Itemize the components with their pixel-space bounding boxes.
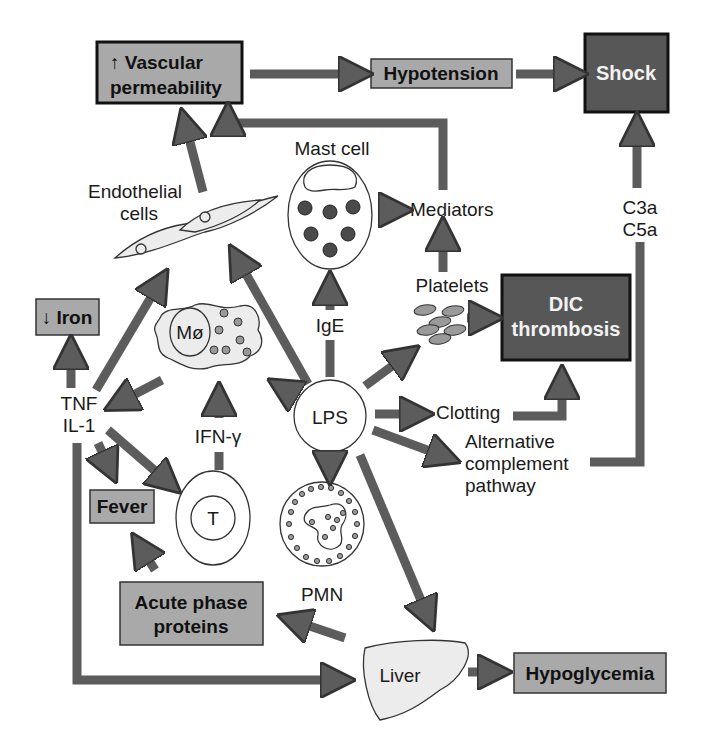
arrow-lps-to-platelets <box>365 355 407 386</box>
arrow-tnf-to-endothelial <box>96 282 160 390</box>
ige-label: IgE <box>316 315 345 336</box>
il1-label: IL-1 <box>63 415 96 436</box>
arrow-acute-to-fever <box>140 546 155 570</box>
ifn-gamma-label: IFN-γ <box>195 426 242 447</box>
alt-complement-label-1: Alternative <box>465 431 555 452</box>
iron-box: ↓ Iron <box>36 299 99 335</box>
dic-thrombosis-box: DIC thrombosis <box>502 275 630 360</box>
arrow-liver-to-acute <box>292 620 345 638</box>
svg-text:Mø: Mø <box>176 322 204 343</box>
lps-node: LPS <box>294 380 366 452</box>
c3a-label: C3a <box>623 197 658 218</box>
arrow-macrophage-to-tnf <box>118 380 162 403</box>
arrow-lps-to-complement <box>373 430 446 457</box>
mediators-label: Mediators <box>410 199 493 220</box>
arrow-clotting-to-dic <box>513 380 562 416</box>
arrow-tnf-to-tcell <box>108 430 169 483</box>
clotting-label: Clotting <box>436 402 500 423</box>
macrophage-shape: Mø <box>155 304 262 369</box>
t-cell-shape: T <box>176 471 250 565</box>
svg-text:Hypotension: Hypotension <box>383 63 498 84</box>
svg-text:Shock: Shock <box>596 62 657 84</box>
hypoglycemia-box: Hypoglycemia <box>514 653 666 693</box>
acute-phase-proteins-box: Acute phase proteins <box>120 582 263 645</box>
mast-cell-label: Mast cell <box>295 138 370 159</box>
vascular-permeability-box: ↑ Vascular permeability <box>97 42 242 103</box>
svg-text:DIC: DIC <box>549 293 583 315</box>
c5a-label: C5a <box>623 219 658 240</box>
alt-complement-label-2: complement <box>465 453 569 474</box>
endothelial-cells-label: Endothelial <box>88 181 182 202</box>
pmn-label: PMN <box>301 584 343 605</box>
svg-text:Acute phase: Acute phase <box>135 592 248 613</box>
fever-box: Fever <box>90 490 154 523</box>
svg-text:LPS: LPS <box>312 407 348 428</box>
svg-text:Hypoglycemia: Hypoglycemia <box>526 663 655 684</box>
endothelial-cells-label-2: cells <box>120 203 158 224</box>
platelets-label: Platelets <box>416 275 489 296</box>
svg-text:thrombosis: thrombosis <box>512 318 621 340</box>
tnf-label: TNF <box>61 393 98 414</box>
arrow-lps-to-macrophage <box>281 387 296 396</box>
arrow-endothelial-to-vascular <box>185 123 203 192</box>
svg-text:T: T <box>207 508 219 529</box>
shock-box: Shock <box>585 34 668 112</box>
svg-text:permeability: permeability <box>110 77 222 98</box>
svg-text:Liver: Liver <box>379 665 421 686</box>
mast-cell-shape <box>288 161 372 269</box>
pmn-shape <box>280 482 364 566</box>
svg-text:Fever: Fever <box>97 496 148 517</box>
lps-pathway-diagram: ↑ Vascular permeability Hypotension Shoc… <box>0 0 703 740</box>
arrow-tnf-to-fever <box>98 443 110 469</box>
hypotension-box: Hypotension <box>371 59 512 88</box>
arrow-lps-to-liver <box>360 455 428 617</box>
svg-text:proteins: proteins <box>154 616 229 637</box>
alt-complement-label-3: pathway <box>465 475 536 496</box>
platelets-shape <box>413 303 466 346</box>
svg-text:↑ Vascular: ↑ Vascular <box>110 52 204 73</box>
svg-text:↓ Iron: ↓ Iron <box>42 307 93 328</box>
liver-shape: Liver <box>363 640 468 720</box>
